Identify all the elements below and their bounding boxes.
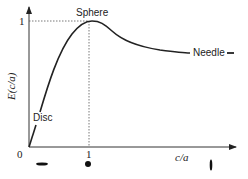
sphere-label: Sphere: [76, 7, 109, 18]
needle-shape-icon: [210, 160, 213, 171]
x-axis-label: c/a: [175, 151, 189, 163]
energy-curve: [40, 21, 190, 112]
y-axis-label: E(c/a): [5, 72, 18, 101]
disc-label: Disc: [33, 112, 52, 123]
needle-label: Needle: [193, 47, 225, 58]
disc-shape-icon: [36, 162, 48, 165]
sphere-shape-icon: [85, 161, 91, 167]
energy-shape-diagram: 1 E(c/a) 0 1 c/a Disc Sphere Needle: [0, 0, 248, 179]
x-tick-label-1: 1: [86, 148, 92, 160]
origin-label: 0: [17, 148, 23, 160]
y-tick-label-1: 1: [19, 15, 25, 27]
energy-curve-disc-segment: [29, 125, 36, 147]
